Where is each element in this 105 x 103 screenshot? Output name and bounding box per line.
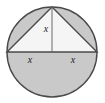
base-right-label: x (70, 54, 76, 65)
base-left-label: x (27, 54, 33, 65)
geometry-figure: x x x (0, 0, 105, 103)
geometry-diagram-svg: x x x (0, 0, 105, 103)
altitude-label: x (43, 23, 49, 34)
